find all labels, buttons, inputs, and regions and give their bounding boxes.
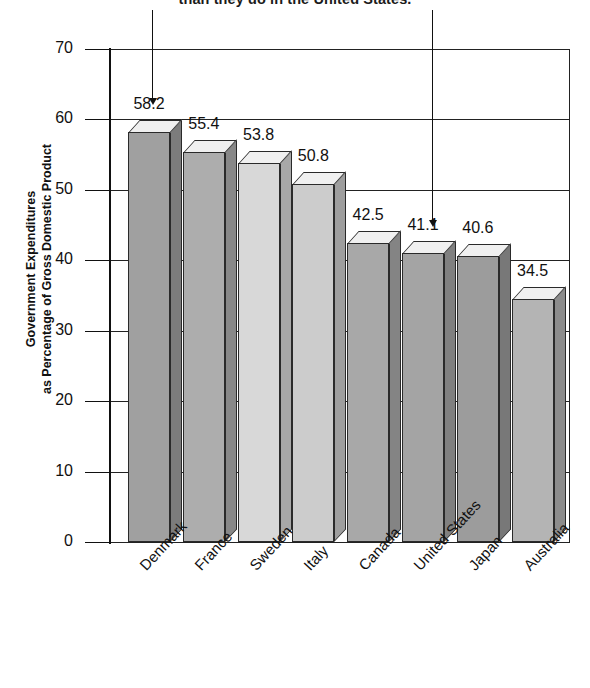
- bar-value-label: 42.5: [353, 206, 384, 224]
- bar: 42.5: [347, 243, 389, 542]
- y-axis-tick: [85, 119, 111, 120]
- arrow-shaft: [432, 10, 433, 220]
- bar-front-face: [402, 253, 444, 542]
- bar-value-label: 55.4: [188, 115, 219, 133]
- bar-front-face: [512, 299, 554, 542]
- y-axis-tick-label: 70: [27, 39, 73, 57]
- y-axis-tick-label: 0: [27, 532, 73, 550]
- bar-front-face: [128, 132, 170, 542]
- bar: 53.8: [238, 163, 280, 542]
- bar: 41.1: [402, 253, 444, 542]
- bar-side-face: [499, 243, 511, 542]
- bar: 50.8: [292, 184, 334, 542]
- y-axis-tick-label: 20: [27, 391, 73, 409]
- bar-side-face: [334, 171, 346, 542]
- y-axis-tick-label: 30: [27, 321, 73, 339]
- bar: 34.5: [512, 299, 554, 542]
- y-axis-tick: [85, 49, 111, 50]
- bar-front-face: [183, 152, 225, 542]
- y-axis-tick: [85, 331, 111, 332]
- bar: 40.6: [457, 256, 499, 542]
- plot-area: 58.255.453.850.842.541.140.634.5: [111, 49, 570, 542]
- y-axis-tick: [85, 401, 111, 402]
- chart-caption: than they do in the United States.: [0, 0, 590, 7]
- plot-right-border: [569, 49, 570, 542]
- arrow-head-icon: [149, 98, 157, 105]
- bar-front-face: [457, 256, 499, 542]
- y-axis-tick-label: 60: [27, 109, 73, 127]
- bar-value-label: 53.8: [243, 126, 274, 144]
- y-axis-tick: [85, 472, 111, 473]
- y-axis-tick-labels: 010203040506070: [27, 0, 73, 688]
- bar-front-face: [292, 184, 334, 542]
- bar-side-face: [225, 139, 237, 542]
- arrow-shaft: [152, 10, 153, 98]
- y-axis-tick-label: 50: [27, 180, 73, 198]
- bar-side-face: [389, 230, 401, 542]
- y-axis-tick: [85, 542, 111, 543]
- y-axis-tick-label: 10: [27, 462, 73, 480]
- bar-value-label: 34.5: [517, 262, 548, 280]
- x-axis-category-label: Italy: [300, 542, 331, 574]
- y-axis-tick-label: 40: [27, 250, 73, 268]
- gridline: [111, 49, 570, 50]
- bar-side-face: [170, 119, 182, 542]
- bar-side-face: [444, 240, 456, 542]
- bar-front-face: [347, 243, 389, 542]
- bar-front-face: [238, 163, 280, 542]
- bar: 58.2: [128, 132, 170, 542]
- arrow-head-icon: [429, 220, 437, 227]
- bar-side-face: [554, 286, 566, 542]
- bar-value-label: 40.6: [462, 219, 493, 237]
- bar-side-face: [280, 150, 292, 542]
- bar: 55.4: [183, 152, 225, 542]
- y-axis-tick: [85, 190, 111, 191]
- y-axis-tick: [85, 260, 111, 261]
- bar-value-label: 50.8: [298, 147, 329, 165]
